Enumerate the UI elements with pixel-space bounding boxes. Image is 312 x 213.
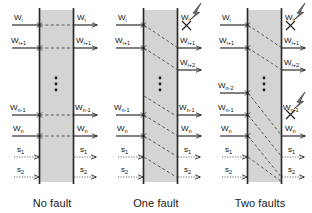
output-label-faulty: Wi bbox=[181, 14, 190, 22]
output-label: Wi bbox=[77, 14, 86, 22]
input-label: s2 bbox=[121, 166, 128, 174]
output-label: Wi+1 bbox=[180, 37, 195, 45]
output-label: Wn bbox=[181, 125, 192, 133]
output-label: s2 bbox=[288, 166, 295, 174]
output-label: s2 bbox=[80, 166, 87, 174]
input-label: s2 bbox=[17, 166, 24, 174]
vertical-ellipsis bbox=[263, 77, 266, 92]
input-label: Wn bbox=[221, 125, 232, 133]
input-label: Wi+1 bbox=[11, 37, 26, 45]
panel-no-fault: Wi Wi+1 Wn-1 Wn s1 s2 Wi Wi+1 Wn-1 Wn s1… bbox=[0, 0, 104, 213]
input-label: s1 bbox=[225, 146, 232, 154]
fault-bolt-icon bbox=[190, 3, 201, 20]
output-label: s1 bbox=[80, 146, 87, 154]
block-body bbox=[247, 10, 282, 182]
input-label: s1 bbox=[17, 146, 24, 154]
output-label: Wn-1 bbox=[75, 104, 91, 112]
block-body bbox=[39, 10, 74, 182]
output-label: Wi+2 bbox=[284, 59, 299, 67]
output-label: Wn bbox=[77, 125, 88, 133]
output-label: Wi+1 bbox=[284, 37, 299, 45]
output-label: Wn bbox=[285, 125, 296, 133]
input-label: s1 bbox=[121, 146, 128, 154]
output-label-faulty: Wi bbox=[285, 14, 294, 22]
input-label: Wi+1 bbox=[115, 37, 130, 45]
output-label: s2 bbox=[184, 166, 191, 174]
output-label: Wi+2 bbox=[180, 59, 195, 67]
figure-root: Wi Wi+1 Wn-1 Wn s1 s2 Wi Wi+1 Wn-1 Wn s1… bbox=[0, 0, 312, 213]
fault-bolt-icon bbox=[294, 3, 305, 20]
input-label: Wi bbox=[222, 14, 231, 22]
block-body bbox=[143, 10, 178, 182]
vertical-ellipsis bbox=[55, 77, 58, 92]
panel-caption-two-faults: Two faults bbox=[208, 197, 312, 209]
input-label: Wn bbox=[117, 125, 128, 133]
vertical-ellipsis bbox=[159, 77, 162, 92]
input-label: Wn-2 bbox=[218, 82, 234, 90]
input-label: Wn-1 bbox=[114, 104, 130, 112]
panel-one-fault: Wi Wi+1 Wn-1 Wn s1 s2 Wi Wi+1 Wi+2 Wn-1 … bbox=[104, 0, 208, 213]
input-label: Wi+1 bbox=[219, 37, 234, 45]
input-label: Wn bbox=[13, 125, 24, 133]
output-label: s1 bbox=[288, 146, 295, 154]
input-label: Wi bbox=[14, 14, 23, 22]
output-label: s1 bbox=[184, 146, 191, 154]
panel-caption-no-fault: No fault bbox=[0, 197, 104, 209]
panel-caption-one-fault: One fault bbox=[104, 197, 208, 209]
input-label: s2 bbox=[225, 166, 232, 174]
input-label: Wn-1 bbox=[218, 104, 234, 112]
input-label: Wi bbox=[118, 14, 127, 22]
panel-two-faults: Wi Wi+1 Wn-2 Wn-1 Wn s1 s2 Wi Wi+1 Wi+2 … bbox=[208, 0, 312, 213]
input-label: Wn-1 bbox=[10, 104, 26, 112]
output-label: Wn-1 bbox=[179, 104, 195, 112]
output-label-faulty: Wn-1 bbox=[283, 104, 299, 112]
output-label: Wi+1 bbox=[76, 37, 91, 45]
